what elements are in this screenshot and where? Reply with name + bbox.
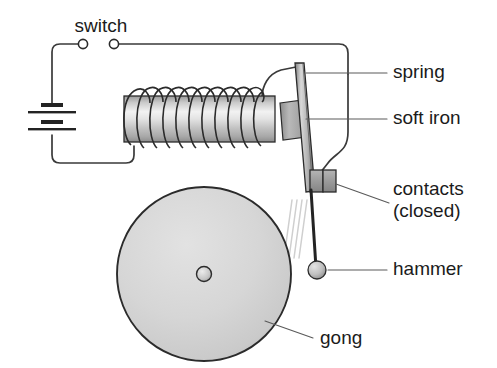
switch-label: switch bbox=[75, 15, 128, 36]
contacts-label-line2: (closed) bbox=[393, 200, 461, 221]
switch-terminal-right[interactable] bbox=[109, 39, 118, 48]
wire-switch-to-right-rail bbox=[118, 44, 348, 74]
gong-center-hub bbox=[197, 267, 212, 282]
contact-block-left bbox=[310, 170, 323, 192]
spring-label: spring bbox=[393, 61, 445, 82]
electric-bell-diagram: switch bbox=[0, 0, 497, 368]
wire-battery-to-coil bbox=[52, 135, 134, 163]
battery-plate-long-1 bbox=[28, 111, 76, 113]
battery-plate-short-1 bbox=[41, 103, 63, 107]
soft-iron-label: soft iron bbox=[393, 107, 461, 128]
wire-right-rail-to-contacts bbox=[312, 74, 348, 180]
diagram-canvas: switch bbox=[0, 0, 497, 368]
wire-battery-to-switch bbox=[52, 44, 79, 104]
leader-contacts bbox=[336, 184, 389, 203]
gong-label: gong bbox=[320, 327, 362, 348]
contacts-label-line1: contacts bbox=[393, 178, 464, 199]
hammer bbox=[308, 190, 326, 279]
iron-core bbox=[124, 96, 275, 142]
hammer-ball bbox=[308, 261, 326, 279]
switch-terminal-left[interactable] bbox=[78, 39, 87, 48]
wire-coil-to-armature bbox=[262, 67, 296, 98]
gong bbox=[117, 187, 291, 361]
hammer-label: hammer bbox=[393, 258, 463, 279]
electromagnet bbox=[124, 87, 275, 148]
contact-block-right bbox=[323, 170, 336, 192]
battery-plate-short-2 bbox=[41, 120, 63, 124]
hammer-shaft bbox=[311, 190, 316, 268]
switch[interactable] bbox=[78, 39, 118, 48]
battery-plate-long-2 bbox=[28, 128, 76, 130]
contacts bbox=[310, 170, 336, 192]
battery bbox=[28, 103, 76, 130]
